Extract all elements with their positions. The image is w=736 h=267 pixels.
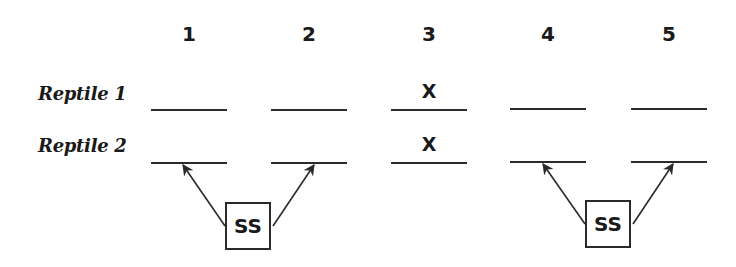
arrow-left-box-to-col1: [183, 165, 225, 226]
ss-box-left-label: SS: [234, 214, 262, 238]
arrow-right-box-to-col5: [633, 164, 673, 224]
arrow-right-box-to-col4: [543, 164, 585, 224]
ss-box-right: SS: [585, 200, 631, 248]
ss-box-left: SS: [225, 202, 271, 250]
ss-box-right-label: SS: [594, 212, 622, 236]
arrow-left-box-to-col2: [273, 165, 314, 226]
